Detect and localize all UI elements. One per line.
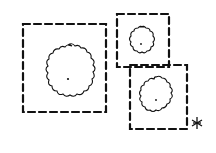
large-tree-center-dot — [67, 78, 69, 80]
tree-plan-sketch — [0, 0, 216, 153]
large-tree-canopy — [46, 44, 95, 97]
medium-tree-center-dot — [155, 99, 157, 101]
small-tree-canopy — [130, 26, 155, 53]
medium-tree-canopy — [140, 76, 173, 111]
star-mark-icon — [192, 117, 202, 129]
small-tree-center-dot — [140, 43, 142, 45]
